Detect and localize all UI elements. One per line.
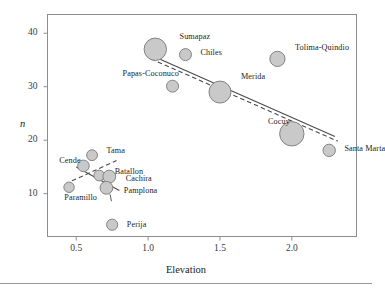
y-axis-title: n [20, 118, 25, 129]
point-label-tama: Tama [106, 146, 124, 155]
point-label-santa-marta: Santa Marta [344, 144, 385, 153]
point-label-chiles: Chiles [200, 48, 222, 57]
x-tick-label: 1.5 [200, 243, 240, 253]
y-tick-label: 40 [6, 27, 38, 37]
y-tick-label: 10 [6, 188, 38, 198]
data-point-tolima-quindio [270, 51, 285, 66]
data-point-papas-coconuco [167, 80, 179, 92]
x-tick-label: 2.0 [272, 243, 312, 253]
main-solid [151, 55, 335, 136]
pamplona-leader [110, 194, 111, 201]
point-label-cachira: Cachira [126, 174, 152, 183]
data-point-pamplona [100, 181, 113, 194]
point-label-pamplona: Pamplona [124, 186, 158, 195]
x-axis-title: Elevation [0, 264, 372, 275]
point-label-sumapaz: Sumapaz [179, 32, 210, 41]
footer-divider [0, 283, 372, 284]
data-point-sumapaz [144, 38, 166, 60]
point-label-papas-coconuco: Papas-Coconuco [123, 69, 179, 78]
data-point-santa-marta [323, 144, 335, 156]
x-tick-label: 1.0 [128, 243, 168, 253]
data-point-merida [209, 81, 231, 103]
x-axis-ticks [76, 237, 292, 241]
data-point-tama [87, 150, 98, 161]
point-label-paramillo: Paramillo [64, 193, 97, 202]
point-label-merida: Merida [241, 72, 265, 81]
data-point-chiles [179, 49, 191, 61]
data-point-paramillo [64, 182, 74, 192]
x-tick-label: 0.5 [56, 243, 96, 253]
y-tick-label: 20 [6, 134, 38, 144]
y-tick-label: 30 [6, 81, 38, 91]
point-label-cende: Cende [59, 156, 80, 165]
data-point-perija [107, 219, 118, 230]
point-label-cocuy: Cocuy [268, 117, 290, 126]
point-label-perija: Perija [127, 220, 147, 229]
point-label-tolima-quindio: Tolima-Quindio [295, 43, 349, 52]
data-point-bubbles [64, 38, 336, 230]
y-axis-ticks [44, 33, 48, 193]
